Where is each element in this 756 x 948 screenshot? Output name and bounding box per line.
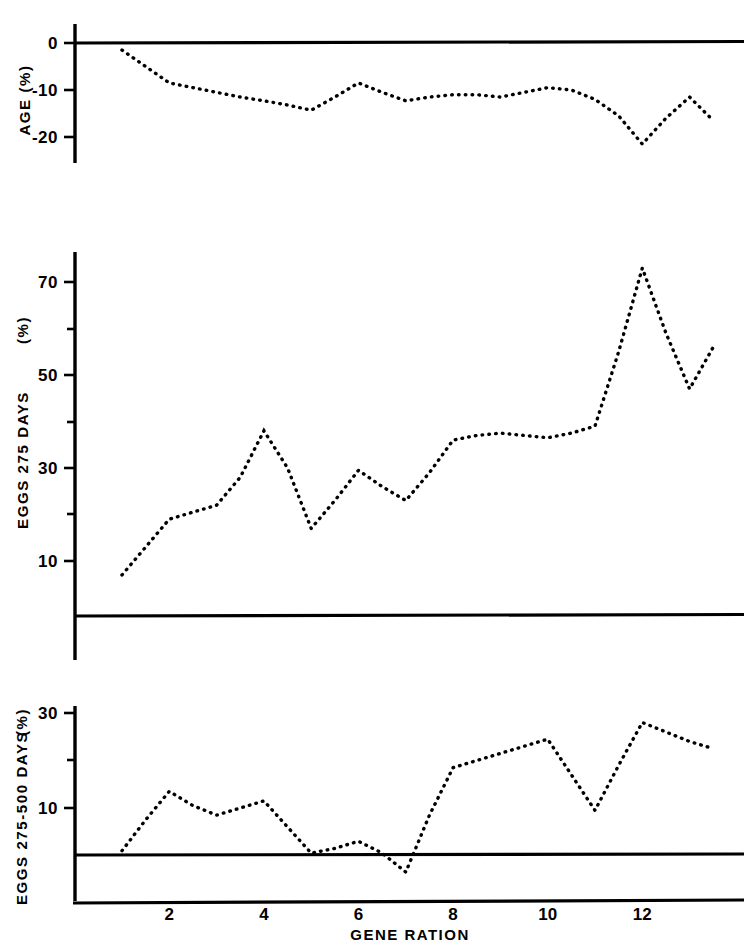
eggs275500-y-axis-unit: (%) — [13, 708, 30, 736]
eggs275-ytick-50: 50 — [38, 366, 58, 385]
age-y-axis-title: AGE (%) — [16, 64, 33, 135]
three-panel-line-chart: 0 -10 -20 AGE (%) 70 50 30 10 EGG — [0, 0, 756, 948]
age-zero-line — [75, 42, 744, 44]
eggs275500-ytick-30: 30 — [38, 704, 58, 723]
age-ytick-neg10: -10 — [32, 81, 58, 100]
panel-age: 0 -10 -20 AGE (%) — [16, 24, 744, 163]
eggs275-baseline — [75, 615, 744, 617]
eggs275500-ytick-10: 10 — [38, 799, 58, 818]
x-tick-label-4: 4 — [259, 905, 269, 924]
eggs275500-x-axis-line — [73, 900, 744, 903]
x-axis-tick-labels: 24681012 — [165, 905, 652, 924]
eggs275-series-line — [122, 268, 713, 575]
eggs275-y-axis-title: EGGS 275 DAYS — [14, 391, 31, 529]
eggs275-ytick-70: 70 — [38, 273, 58, 292]
age-ytick-0: 0 — [48, 34, 58, 53]
x-tick-label-8: 8 — [448, 905, 457, 924]
age-series-line — [122, 50, 713, 144]
x-tick-label-12: 12 — [633, 905, 652, 924]
eggs275-ytick-30: 30 — [38, 459, 58, 478]
x-axis-title: GENE RATION — [350, 926, 470, 943]
panel-eggs-275: 70 50 30 10 EGGS 275 DAYS (%) — [14, 252, 744, 660]
figure-panel-group: 0 -10 -20 AGE (%) 70 50 30 10 EGG — [0, 0, 756, 948]
x-tick-label-2: 2 — [165, 905, 174, 924]
eggs275-y-axis-unit: (%) — [14, 316, 31, 344]
eggs275500-series-line — [122, 723, 713, 873]
eggs275500-y-axis-title: EGGS 275-500 DAYS — [13, 731, 30, 905]
x-tick-label-10: 10 — [538, 905, 557, 924]
x-tick-label-6: 6 — [354, 905, 363, 924]
age-ytick-neg20: -20 — [32, 128, 58, 147]
eggs275500-zero-line — [75, 854, 744, 855]
panel-eggs-275-500: 30 10 EGGS 275-500 DAYS (%) 24681012 GEN… — [13, 704, 744, 943]
eggs275-ytick-10: 10 — [38, 552, 58, 571]
